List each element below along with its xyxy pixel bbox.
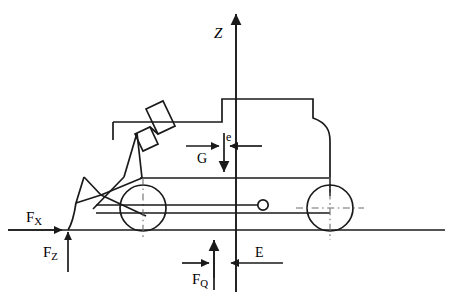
- force-label-fx-sub: X: [34, 215, 42, 227]
- axis-label-z: Z: [214, 26, 222, 41]
- force-diagram-svg: [0, 0, 453, 305]
- loader-bucket: [68, 177, 101, 230]
- force-label-fz-sub: Z: [51, 250, 58, 262]
- lift-arm: [93, 133, 146, 216]
- dimension-label-e-big: E: [255, 246, 264, 260]
- diagram-canvas: Z FX FZ FQ G e E: [0, 0, 453, 305]
- hitch-pin-circle: [258, 200, 268, 210]
- force-label-fx: FX: [26, 210, 42, 227]
- dimension-label-e-small: e: [226, 131, 231, 143]
- machine-body-outline: [96, 99, 330, 213]
- force-label-g: G: [197, 152, 207, 166]
- force-label-fq-sub: Q: [200, 277, 208, 289]
- hydraulic-cylinder: [135, 101, 175, 151]
- force-label-fq: FQ: [192, 272, 208, 289]
- force-label-fz: FZ: [43, 245, 58, 262]
